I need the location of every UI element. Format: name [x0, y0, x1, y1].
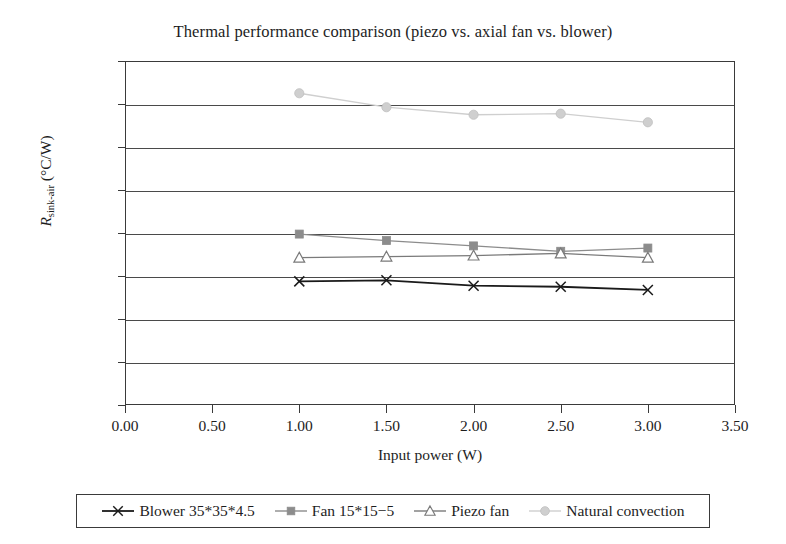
x-axis-tick-label: 2.00	[439, 417, 509, 435]
x-axis-tick-label: 0.00	[90, 417, 160, 435]
gridline-y	[126, 234, 734, 235]
y-axis-title-subscript: sink-air	[45, 185, 56, 217]
x-axis-tick	[561, 405, 562, 413]
x-axis-tick-label: 2.50	[526, 417, 596, 435]
legend-marker-filled-square-icon	[274, 503, 308, 519]
legend-entry-natural-convection[interactable]: Natural convection	[528, 503, 684, 519]
x-axis-tick	[648, 405, 649, 413]
gridline-y	[126, 363, 734, 364]
legend-label: Blower 35*35*4.5	[139, 503, 254, 519]
x-axis-tick-label: 3.50	[700, 417, 770, 435]
legend-marker-filled-circle-icon	[528, 503, 562, 519]
legend-marker-x-cross-icon	[101, 503, 135, 519]
data-point-marker	[541, 507, 550, 516]
y-axis-title-symbol: R	[37, 217, 54, 226]
chart-legend: Blower 35*35*4.5Fan 15*15−5Piezo fanNatu…	[76, 494, 710, 528]
legend-label: Natural convection	[566, 503, 684, 519]
chart-figure: Thermal performance comparison (piezo vs…	[0, 0, 786, 544]
x-axis-tick	[474, 405, 475, 413]
y-axis-tick	[118, 61, 125, 62]
x-axis-tick	[299, 405, 300, 413]
x-axis-tick	[386, 405, 387, 413]
x-axis-tick	[125, 405, 126, 413]
x-axis-tick-label: 0.50	[177, 417, 247, 435]
legend-entry-piezo-fan[interactable]: Piezo fan	[413, 503, 509, 519]
y-axis-tick	[118, 147, 125, 148]
x-axis-tick	[735, 405, 736, 413]
gridline-y	[126, 191, 734, 192]
y-axis-tick	[118, 104, 125, 105]
y-axis-title: Rsink-air (°C/W)	[37, 71, 55, 291]
x-axis-tick-label: 3.00	[613, 417, 683, 435]
legend-label: Piezo fan	[451, 503, 509, 519]
legend-entry-blower-35-35-4-5[interactable]: Blower 35*35*4.5	[101, 503, 254, 519]
x-axis-tick	[212, 405, 213, 413]
legend-marker-open-triangle-icon	[413, 503, 447, 519]
chart-title: Thermal performance comparison (piezo vs…	[0, 22, 786, 42]
plot-area	[125, 61, 735, 405]
gridline-y	[126, 105, 734, 106]
x-axis-tick-label: 1.00	[264, 417, 334, 435]
y-axis-title-unit: (°C/W)	[37, 135, 54, 185]
legend-label: Fan 15*15−5	[312, 503, 394, 519]
y-axis-tick	[118, 319, 125, 320]
data-point-marker	[287, 507, 295, 515]
gridline-y	[126, 320, 734, 321]
y-axis-tick	[118, 276, 125, 277]
x-axis-title: Input power (W)	[125, 446, 735, 464]
x-axis-tick-label: 1.50	[351, 417, 421, 435]
y-axis-tick	[118, 362, 125, 363]
gridline-y	[126, 148, 734, 149]
legend-entry-fan-15-15-5[interactable]: Fan 15*15−5	[274, 503, 394, 519]
y-axis-tick	[118, 405, 125, 406]
gridline-y	[126, 277, 734, 278]
y-axis-tick	[118, 233, 125, 234]
y-axis-tick	[118, 190, 125, 191]
